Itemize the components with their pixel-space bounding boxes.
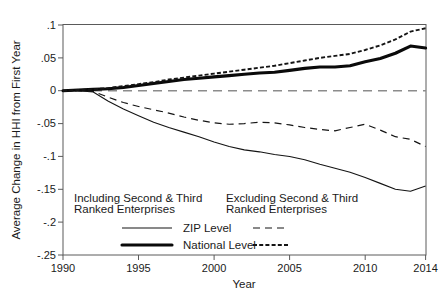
x-axis-title: Year xyxy=(232,278,255,290)
legend-heading-left-line2: Ranked Enterprises xyxy=(74,203,175,215)
chart-background xyxy=(0,0,442,304)
y-tick-label: -.1 xyxy=(43,150,56,162)
x-tick-label: 2014 xyxy=(413,262,437,274)
x-tick-label: 2000 xyxy=(202,262,226,274)
x-tick-label: 1995 xyxy=(126,262,150,274)
legend-label-national: National Level xyxy=(183,239,256,251)
y-tick-label: 0 xyxy=(50,84,56,96)
y-tick-label: -.25 xyxy=(37,249,56,261)
x-tick-label: 2005 xyxy=(277,262,301,274)
legend-heading-right-line2: Ranked Enterprises xyxy=(226,203,327,215)
y-tick-label: .05 xyxy=(41,52,56,64)
legend-label-zip: ZIP Level xyxy=(183,222,231,234)
y-tick-label: -.2 xyxy=(43,216,56,228)
y-tick-label: -.05 xyxy=(37,117,56,129)
chart-figure: Average Change in HHI from First Year .1… xyxy=(0,0,442,304)
y-axis-title: Average Change in HHI from First Year xyxy=(10,40,22,239)
y-tick-label: -.15 xyxy=(37,183,56,195)
y-tick-label: .1 xyxy=(47,19,56,31)
chart-svg: Average Change in HHI from First Year .1… xyxy=(0,0,442,304)
x-tick-label: 1990 xyxy=(51,262,75,274)
x-tick-label: 2010 xyxy=(353,262,377,274)
